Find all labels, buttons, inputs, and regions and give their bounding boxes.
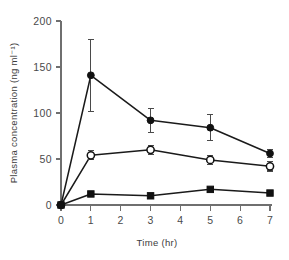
data-point-marker: [88, 191, 94, 197]
series-open-circle: [57, 145, 273, 208]
x-tick-label: 6: [237, 214, 243, 226]
data-point-marker: [207, 186, 213, 192]
data-point-marker: [207, 156, 214, 163]
data-series-layer: [57, 39, 273, 208]
y-tick-label: 200: [33, 15, 52, 27]
series-filled-circle: [58, 39, 274, 208]
series-line-path: [61, 75, 270, 205]
y-axis-title: Plasma concentration (ng ml⁻¹): [8, 43, 19, 184]
y-tick-label: 0: [46, 199, 52, 211]
x-axis: 01234567: [58, 205, 273, 226]
data-point-marker: [266, 163, 273, 170]
data-point-marker: [267, 190, 273, 196]
y-axis: 050100150200: [33, 15, 61, 211]
data-point-marker: [147, 117, 154, 124]
data-point-marker: [87, 152, 94, 159]
data-point-marker: [58, 202, 64, 208]
plasma-concentration-line-chart: 050100150200 01234567 Time (hr) Plasma c…: [0, 0, 289, 260]
x-tick-label: 0: [58, 214, 64, 226]
data-point-marker: [267, 150, 274, 157]
x-tick-label: 4: [177, 214, 183, 226]
data-point-marker: [147, 146, 154, 153]
x-tick-label: 7: [267, 214, 273, 226]
data-point-marker: [207, 124, 214, 131]
x-tick-label: 2: [118, 214, 124, 226]
y-tick-label: 50: [40, 153, 52, 165]
data-point-marker: [147, 193, 153, 199]
x-tick-label: 1: [88, 214, 94, 226]
data-point-marker: [87, 72, 94, 79]
chart-figure: 050100150200 01234567 Time (hr) Plasma c…: [0, 0, 289, 260]
y-tick-label: 150: [33, 61, 52, 73]
y-tick-label: 100: [33, 107, 52, 119]
x-axis-title: Time (hr): [137, 237, 178, 248]
x-axis-ticks: 01234567: [58, 205, 273, 226]
x-tick-label: 5: [207, 214, 213, 226]
x-tick-label: 3: [147, 214, 153, 226]
y-axis-ticks: 050100150200: [33, 15, 61, 211]
